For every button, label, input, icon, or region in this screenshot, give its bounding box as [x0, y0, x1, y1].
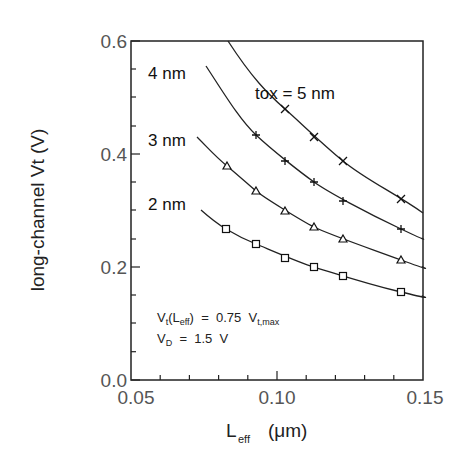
series-label-tox-2nm: 2 nm — [148, 195, 186, 214]
svg-text:Vt(Leff) = 0.75 Vt,max: Vt(Leff) = 0.75 Vt,max — [157, 310, 280, 327]
svg-text:VD = 1.5 V: VD = 1.5 V — [157, 331, 229, 348]
markers-tox-4nm — [252, 131, 405, 233]
x-axis-title-main: L — [226, 420, 237, 441]
series-label-tox-5nm: tox = 5 nm — [255, 84, 335, 103]
x-tick-label: 0.15 — [407, 387, 444, 408]
annotation-vt-condition: Vt(Leff) = 0.75 Vt,max — [157, 310, 280, 327]
series-label-tox-4nm: 4 nm — [148, 64, 186, 83]
markers-tox-5nm — [281, 105, 405, 203]
x-axis-ticks — [160, 371, 394, 380]
y-tick-label: 0.2 — [101, 257, 127, 278]
x-axis-title-sub: eff — [238, 433, 251, 445]
x-axis-title: L eff (μm) — [226, 420, 307, 445]
markers-tox-3nm — [223, 162, 405, 263]
y-axis-ticks — [131, 41, 140, 380]
curve-tox-3nm — [197, 137, 426, 268]
y-tick-label: 0.4 — [101, 144, 128, 165]
x-tick-label: 0.10 — [259, 387, 296, 408]
series-label-tox-3nm: 3 nm — [148, 131, 186, 150]
curve-tox-5nm — [228, 41, 423, 213]
vt-vs-leff-chart: 0.0 0.2 0.4 0.6 0.05 0.10 0.15 long-chan… — [0, 0, 461, 465]
y-tick-label: 0.6 — [101, 31, 127, 52]
x-tick-label: 0.05 — [118, 387, 155, 408]
markers-tox-2nm — [223, 226, 405, 296]
y-axis-title: long-channel Vt (V) — [27, 129, 48, 292]
annotation-vd: VD = 1.5 V — [157, 331, 229, 348]
x-axis-title-unit: (μm) — [268, 420, 307, 441]
